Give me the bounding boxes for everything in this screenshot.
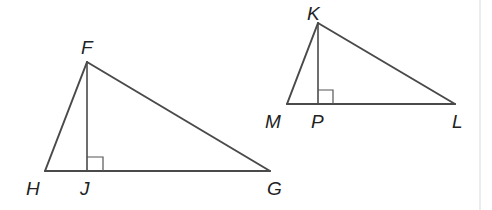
vertex-label-l: L bbox=[452, 111, 463, 132]
vertex-label-g: G bbox=[267, 178, 282, 199]
triangle-fhg: F H J G bbox=[26, 37, 282, 199]
segment-fg bbox=[87, 62, 270, 171]
triangle-kml: K M P L bbox=[265, 3, 463, 132]
right-angle-marker-p bbox=[318, 90, 333, 104]
vertex-label-m: M bbox=[265, 111, 281, 132]
vertex-label-p: P bbox=[311, 111, 324, 132]
segment-kl bbox=[318, 23, 455, 104]
similar-triangles-diagram: F H J G K M P L bbox=[0, 0, 492, 210]
vertex-label-k: K bbox=[307, 3, 321, 24]
right-angle-marker-j bbox=[87, 157, 103, 171]
vertex-label-j: J bbox=[79, 178, 90, 199]
segment-hf bbox=[45, 62, 87, 171]
segment-mk bbox=[287, 23, 318, 104]
vertex-label-h: H bbox=[26, 178, 40, 199]
vertex-label-f: F bbox=[81, 37, 94, 58]
